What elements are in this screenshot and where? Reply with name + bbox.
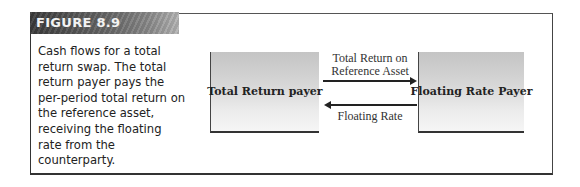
figure-label: FIGURE 8.9	[36, 15, 120, 30]
figure-header: FIGURE 8.9	[30, 12, 179, 34]
figure-caption: Cash flows for a total return swap. The …	[38, 44, 188, 169]
right-arrow-icon	[323, 80, 411, 82]
top-flow-label: Total Return on Reference Asset	[325, 52, 415, 78]
floating-rate-payer-label: Floating Rate Payer	[411, 85, 533, 98]
top-flow-label-line2: Reference Asset	[325, 65, 415, 78]
total-return-payer-label: Total Return payer	[207, 85, 322, 98]
left-arrow-icon	[330, 104, 417, 106]
bottom-flow-label: Floating Rate	[325, 110, 415, 123]
total-return-payer-box: Total Return payer	[210, 52, 319, 133]
floating-rate-payer-box: Floating Rate Payer	[418, 52, 524, 133]
